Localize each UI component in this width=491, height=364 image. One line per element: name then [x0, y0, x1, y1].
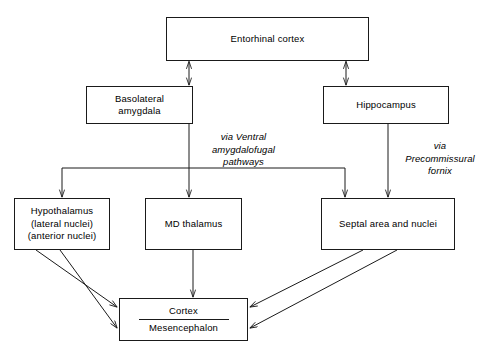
- edge-hypothalamus-to-cortex-upper: [36, 250, 117, 307]
- edge-label-ventral-amygdalofugal: via Ventral amygdalofugal pathways: [192, 131, 295, 169]
- node-hypothalamus-label-line3: (anterior nuclei): [28, 230, 97, 243]
- node-septal-area-label: Septal area and nuclei: [339, 218, 437, 231]
- node-entorhinal-cortex-label: Entorhinal cortex: [231, 33, 305, 46]
- node-entorhinal-cortex: Entorhinal cortex: [166, 17, 369, 61]
- node-basolateral-amygdala: Basolateral amygdala: [86, 86, 193, 124]
- edge-label-precommissural-fornix-line3: fornix: [391, 165, 489, 178]
- node-cortex-label: Cortex: [169, 305, 198, 320]
- node-septal-area: Septal area and nuclei: [321, 198, 455, 250]
- edge-label-ventral-amygdalofugal-line1: via Ventral: [192, 131, 295, 144]
- cortex-mesencephalon-divider: [139, 319, 229, 320]
- node-cortex-mesencephalon: Cortex Mesencephalon: [119, 298, 248, 341]
- pathway-diagram: Entorhinal cortex Basolateral amygdala H…: [0, 0, 491, 364]
- edge-label-ventral-amygdalofugal-line3: pathways: [192, 156, 295, 169]
- node-mesencephalon-label: Mesencephalon: [149, 321, 218, 335]
- node-hippocampus: Hippocampus: [323, 86, 449, 124]
- edge-hypothalamus-to-cortex-lower: [60, 250, 117, 328]
- node-md-thalamus: MD thalamus: [145, 198, 242, 250]
- node-hippocampus-label: Hippocampus: [356, 99, 416, 112]
- node-hypothalamus-label-line1: Hypothalamus: [31, 205, 94, 218]
- node-md-thalamus-label: MD thalamus: [165, 218, 223, 231]
- edge-label-precommissural-fornix: via Precommissural fornix: [391, 140, 489, 178]
- node-basolateral-amygdala-label-line2: amygdala: [118, 105, 160, 118]
- node-basolateral-amygdala-label-line1: Basolateral: [115, 93, 164, 106]
- edge-label-precommissural-fornix-line1: via: [391, 140, 489, 153]
- edge-label-precommissural-fornix-line2: Precommissural: [391, 153, 489, 166]
- node-hypothalamus-label-line2: (lateral nuclei): [31, 218, 93, 231]
- edge-label-ventral-amygdalofugal-line2: amygdalofugal: [192, 144, 295, 157]
- edge-septal-to-cortex-lower: [250, 250, 397, 328]
- node-hypothalamus: Hypothalamus (lateral nuclei) (anterior …: [14, 198, 110, 250]
